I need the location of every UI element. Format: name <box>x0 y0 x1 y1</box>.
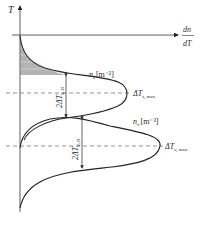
s-max-label: ΔTs, max <box>132 89 156 100</box>
ns-label: ns[m⁻²] <box>89 70 114 80</box>
dn-label: dn <box>183 25 191 34</box>
s-sigma-label: 2ΔTs, σ <box>55 87 65 108</box>
dt-label: dT <box>183 39 192 48</box>
t-axis-label: T <box>8 4 15 15</box>
nucleation-distribution-diagram: T dn dT 2ΔTs, σ 2ΔTv, σ ns[m⁻²] nv[m⁻³] … <box>0 0 203 229</box>
v-max-label: ΔTv, max <box>164 142 188 153</box>
nv-curve <box>20 117 160 208</box>
v-sigma-label: 2ΔTv, σ <box>71 139 81 160</box>
nv-label: nv[m⁻³] <box>133 117 159 127</box>
